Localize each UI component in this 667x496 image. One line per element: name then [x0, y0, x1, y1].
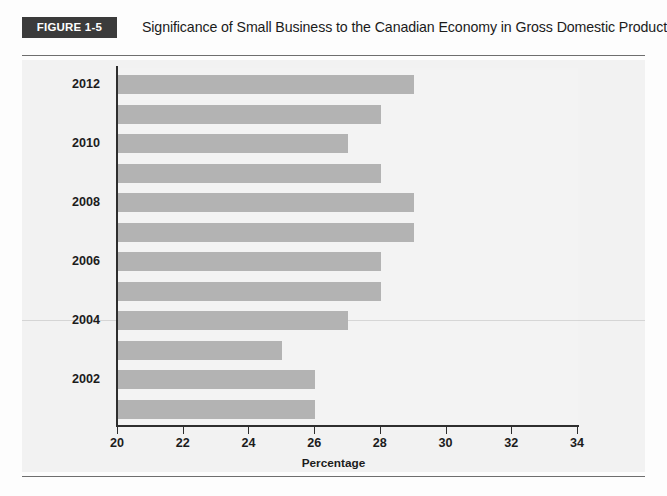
bar-row — [118, 365, 578, 395]
bar — [118, 341, 282, 360]
bar-series — [118, 70, 578, 424]
bar-row — [118, 247, 578, 277]
bar — [118, 282, 381, 301]
bar — [118, 105, 381, 124]
bar-row — [118, 306, 578, 336]
bar-row — [118, 188, 578, 218]
x-axis-tick-label: 32 — [504, 436, 518, 450]
figure-number-badge: FIGURE 1-5 — [22, 17, 117, 38]
x-axis-tick-label: 34 — [570, 436, 584, 450]
y-axis-tick-label: 2010 — [72, 136, 100, 150]
bar — [118, 252, 381, 271]
bar-row — [118, 277, 578, 307]
bar — [118, 193, 414, 212]
x-axis-tick — [183, 427, 184, 434]
figure-page: FIGURE 1-5 Significance of Small Busines… — [0, 0, 667, 496]
bar-row — [118, 395, 578, 425]
x-axis-tick — [511, 427, 512, 434]
header-divider — [22, 55, 645, 56]
bar — [118, 311, 348, 330]
x-axis-tick — [446, 427, 447, 434]
x-axis-tick-label: 22 — [176, 436, 190, 450]
bar-row — [118, 100, 578, 130]
x-axis-tick-label: 28 — [373, 436, 387, 450]
figure-header: FIGURE 1-5 Significance of Small Busines… — [0, 14, 667, 40]
y-axis-labels: 201220102008200620042002 — [0, 70, 112, 424]
bar — [118, 134, 348, 153]
x-axis-tick — [577, 427, 578, 434]
y-axis-tick-label: 2008 — [72, 195, 100, 209]
y-axis-tick-label: 2006 — [72, 254, 100, 268]
x-axis-tick — [380, 427, 381, 434]
bar — [118, 75, 414, 94]
y-axis-tick-label: 2004 — [72, 313, 100, 327]
footer-divider — [22, 476, 645, 477]
bar — [118, 164, 381, 183]
x-axis-tick — [314, 427, 315, 434]
bar-row — [118, 336, 578, 366]
x-axis-tick-label: 24 — [241, 436, 255, 450]
bar-row — [118, 218, 578, 248]
figure-title: Significance of Small Business to the Ca… — [142, 19, 667, 35]
bar — [118, 223, 414, 242]
x-axis-line — [116, 425, 579, 427]
y-axis-tick-label: 2012 — [72, 77, 100, 91]
y-axis-tick-label: 2002 — [72, 372, 100, 386]
bar — [118, 400, 315, 419]
bar — [118, 370, 315, 389]
x-axis-tick-label: 26 — [307, 436, 321, 450]
bar-row — [118, 129, 578, 159]
bar-row — [118, 159, 578, 189]
x-axis-tick — [248, 427, 249, 434]
x-axis-title: Percentage — [0, 456, 667, 470]
bar-row — [118, 70, 578, 100]
x-axis-tick-label: 30 — [439, 436, 453, 450]
x-axis-tick — [117, 427, 118, 434]
x-axis-tick-label: 20 — [110, 436, 124, 450]
